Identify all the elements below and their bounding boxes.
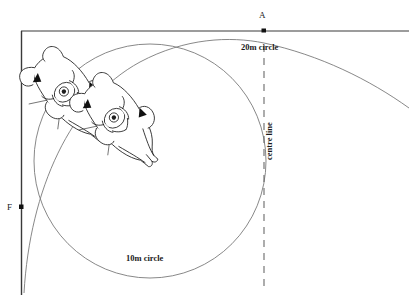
label-point-f: F xyxy=(7,203,12,212)
label-10m-circle: 10m circle xyxy=(126,254,163,263)
diagram-canvas: A F 20m circle 10m circle centre line xyxy=(0,0,409,295)
arena-diagram-svg xyxy=(0,0,409,295)
label-centre-line: centre line xyxy=(265,122,274,160)
label-20m-circle: 20m circle xyxy=(241,43,278,52)
label-point-a: A xyxy=(259,11,266,20)
marker-point-a xyxy=(262,29,267,33)
marker-point-f xyxy=(19,205,24,210)
